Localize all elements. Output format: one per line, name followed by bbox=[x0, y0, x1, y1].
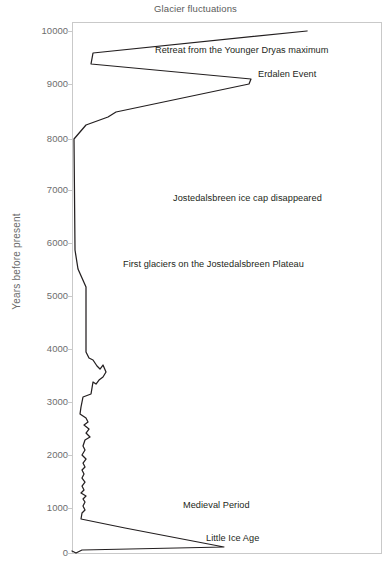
plot-area bbox=[0, 0, 391, 568]
chart-annotation: First glaciers on the Jostedalsbreen Pla… bbox=[123, 259, 304, 269]
chart-annotation: Little Ice Age bbox=[206, 533, 259, 543]
plot-frame bbox=[73, 23, 382, 554]
glacier-extent-line bbox=[72, 31, 307, 553]
glacier-fluctuations-chart: Glacier fluctuations Years before presen… bbox=[0, 0, 391, 568]
chart-annotation: Retreat from the Younger Dryas maximum bbox=[155, 45, 328, 55]
chart-annotation: Jostedalsbreen ice cap disappeared bbox=[173, 193, 322, 203]
chart-annotation: Medieval Period bbox=[183, 500, 250, 510]
chart-annotation: Erdalen Event bbox=[258, 69, 316, 79]
